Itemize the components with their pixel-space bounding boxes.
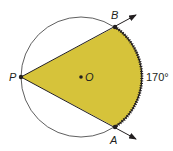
point-A bbox=[113, 125, 117, 129]
arc-measure-label: 170° bbox=[146, 71, 169, 83]
label-B: B bbox=[111, 9, 118, 21]
point-P bbox=[19, 75, 23, 79]
inscribed-angle-diagram: P B A O 170° bbox=[0, 0, 173, 151]
label-O: O bbox=[85, 71, 94, 83]
label-P: P bbox=[9, 71, 17, 83]
point-O bbox=[79, 75, 83, 79]
label-A: A bbox=[109, 134, 117, 146]
point-B bbox=[113, 25, 117, 29]
